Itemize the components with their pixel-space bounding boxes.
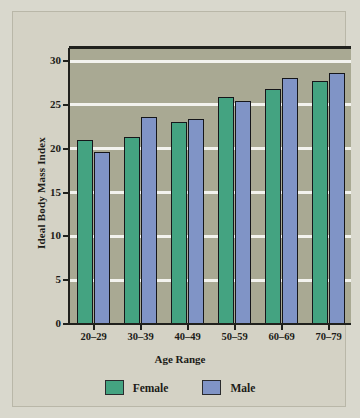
y-tick [63,148,68,150]
gridline [69,191,351,194]
chart-page: 051015202530 Ideal Body Mass Index 20–29… [0,0,360,418]
bar-female-70-79 [312,81,328,324]
figure-panel: 051015202530 Ideal Body Mass Index 20–29… [12,11,346,407]
bar-female-60-69 [265,89,281,324]
bar-male-70-79 [329,73,345,324]
legend-item-female: Female [105,380,169,395]
y-axis-title: Ideal Body Mass Index [35,108,47,278]
bar-male-30-39 [141,117,157,324]
legend: FemaleMale [13,380,347,395]
legend-swatch-female [105,380,124,395]
gridline [69,60,351,63]
x-tick [281,325,283,330]
bar-group [77,48,110,324]
plot-top-border [69,46,351,49]
bar-group [171,48,204,324]
bar-female-50-59 [218,97,234,324]
x-tick [187,325,189,330]
legend-item-male: Male [202,380,255,395]
bar-group [124,48,157,324]
y-tick [63,104,68,106]
y-tick [63,192,68,194]
y-tick [63,235,68,237]
x-tick [328,325,330,330]
bar-male-40-49 [188,119,204,324]
y-tick [63,60,68,62]
gridline [69,103,351,106]
plot-area [69,48,351,324]
bar-group [218,48,251,324]
y-axis-line [68,48,70,325]
bar-male-20-29 [94,152,110,324]
legend-swatch-male [202,380,221,395]
x-axis-line [68,323,351,325]
y-tick-label: 30 [39,54,61,66]
y-tick [63,323,68,325]
bar-female-40-49 [171,122,187,324]
y-tick [63,279,68,281]
x-tick [234,325,236,330]
x-axis-title: Age Range [13,353,347,365]
bar-male-60-69 [282,78,298,324]
bar-female-20-29 [77,140,93,324]
legend-label-male: Male [230,382,255,394]
bar-female-30-39 [124,137,140,325]
x-tick-label-70-79: 70–79 [294,331,360,342]
x-tick [140,325,142,330]
gridline [69,279,351,282]
gridline [69,235,351,238]
y-tick-label: 0 [39,317,61,329]
bar-group [312,48,345,324]
bar-male-50-59 [235,101,251,324]
x-tick [93,325,95,330]
legend-label-female: Female [133,382,169,394]
gridline [69,147,351,150]
bar-group [265,48,298,324]
